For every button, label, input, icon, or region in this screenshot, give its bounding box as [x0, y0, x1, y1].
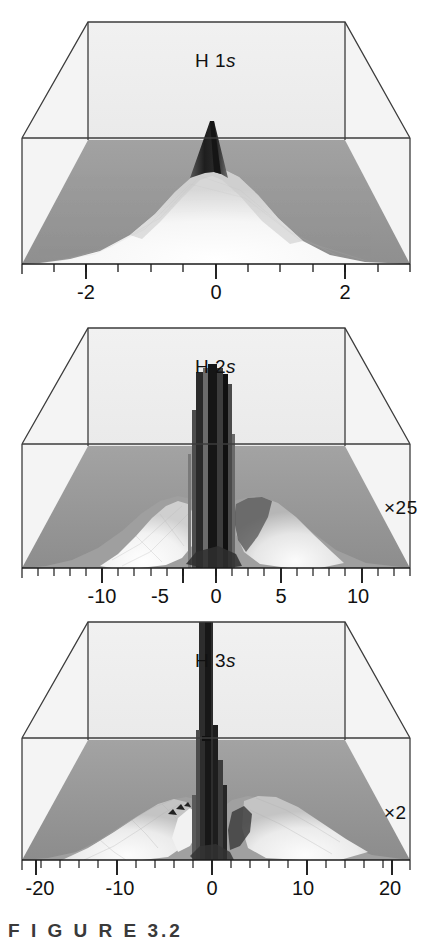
- x-tick-label-3s-1: -10: [106, 877, 135, 900]
- x-axis-major-ticks-3s: [36, 860, 392, 875]
- x-tick-label-1s-1: 0: [210, 281, 221, 304]
- x-tick-label-2s-4: 10: [347, 585, 369, 608]
- x-axis-3s: [22, 860, 410, 875]
- panel-title-text-3s: H 3: [195, 650, 226, 671]
- panel-title-text-2s: H 2: [195, 356, 226, 377]
- orbital-letter-1s: s: [226, 50, 236, 71]
- panel-h-2s: H 2s ×25 -10 -5 0 5 10: [0, 314, 431, 624]
- x-tick-label-1s-0: -2: [77, 281, 95, 304]
- scale-multiplier-2s: ×25: [384, 497, 418, 519]
- panel-h-3s: H 3s ×2 -20 -10 0 10 20: [0, 610, 431, 910]
- panel-h-1s: H 1s -2 0 2: [0, 0, 431, 320]
- x-tick-label-2s-1: -5: [151, 585, 169, 608]
- panel-title-h-2s: H 2s: [0, 356, 431, 378]
- x-tick-label-3s-3: 10: [292, 877, 314, 900]
- x-axis-1s: [22, 264, 410, 279]
- figure-caption: F I G U R E 3.2: [8, 920, 183, 940]
- x-tick-label-3s-4: 20: [379, 877, 401, 900]
- x-axis-minor-ticks-3s: [22, 860, 410, 870]
- orbital-letter-2s: s: [226, 356, 236, 377]
- x-axis-2s: [22, 568, 410, 583]
- x-tick-label-2s-2: 0: [210, 585, 221, 608]
- x-tick-label-2s-0: -10: [88, 585, 117, 608]
- x-axis-major-ticks-1s: [86, 264, 345, 279]
- x-tick-label-3s-2: 0: [206, 877, 217, 900]
- x-tick-label-2s-3: 5: [275, 585, 286, 608]
- plot-surface-h-1s: [0, 0, 431, 300]
- panel-title-h-3s: H 3s: [0, 650, 431, 672]
- orbital-letter-3s: s: [226, 650, 236, 671]
- scale-multiplier-3s: ×2: [384, 802, 407, 824]
- panel-title-text-1s: H 1: [195, 50, 226, 71]
- x-tick-label-3s-0: -20: [26, 877, 55, 900]
- panel-title-h-1s: H 1s: [0, 50, 431, 72]
- x-tick-label-1s-2: 2: [339, 281, 350, 304]
